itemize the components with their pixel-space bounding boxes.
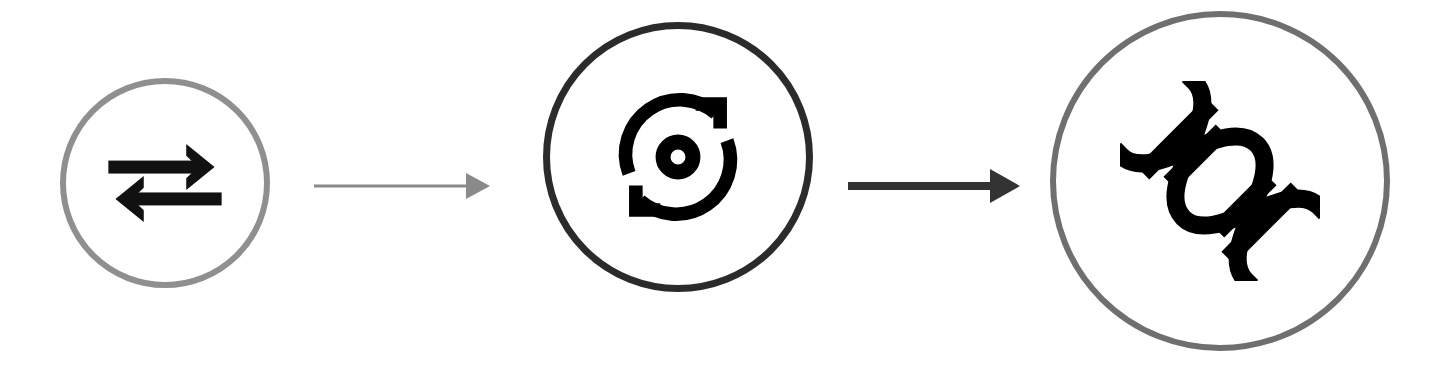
dna-strand-left bbox=[1121, 82, 1319, 280]
stage-node-3[interactable] bbox=[1050, 11, 1390, 351]
flow-arrow-1-head bbox=[466, 173, 490, 199]
flow-arrow-2 bbox=[848, 166, 1020, 206]
flow-arrow-1-shaft bbox=[314, 185, 466, 188]
flow-arrow-1 bbox=[314, 168, 490, 204]
arrow-right-top bbox=[108, 144, 214, 190]
stage-node-1[interactable] bbox=[60, 78, 270, 288]
arrow-left-bottom bbox=[115, 176, 221, 222]
flow-arrow-2-shaft bbox=[848, 182, 990, 190]
dna-helix-icon bbox=[1120, 81, 1320, 281]
exchange-arrows-icon bbox=[106, 124, 224, 242]
flow-arrow-2-head bbox=[990, 169, 1020, 203]
dna-strand-right bbox=[1121, 82, 1319, 280]
rotate-center-ring bbox=[663, 142, 693, 172]
stage-node-2[interactable] bbox=[543, 22, 813, 292]
rotate-sync-icon bbox=[610, 89, 746, 225]
diagram-canvas bbox=[0, 0, 1433, 382]
